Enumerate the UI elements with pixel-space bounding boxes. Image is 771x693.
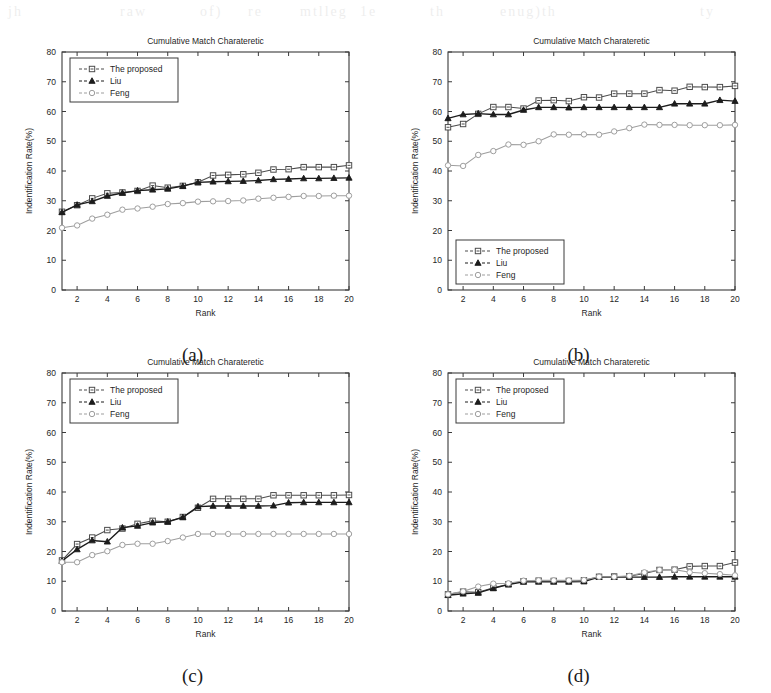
data-point-square-marker	[732, 83, 737, 88]
data-point-square-marker	[506, 104, 511, 109]
data-point-circle-marker	[506, 142, 511, 147]
y-axis-label: Indentification Rate(%)	[24, 449, 34, 535]
series-liu	[445, 574, 738, 598]
data-point-square-marker	[627, 91, 632, 96]
x-tick-label: 2	[461, 615, 466, 625]
x-tick-label: 6	[135, 294, 140, 304]
legend-label: The proposed	[110, 385, 163, 395]
data-point-circle-marker	[286, 531, 291, 536]
data-point-circle-marker	[210, 199, 215, 204]
y-tick-label: 50	[47, 457, 57, 467]
panel-caption-d: (d)	[386, 665, 771, 687]
data-point-circle-marker	[89, 90, 94, 95]
data-point-circle-marker	[642, 570, 647, 575]
y-tick-label: 60	[433, 428, 443, 438]
data-point-circle-marker	[89, 411, 94, 416]
chart-legend[interactable]: The proposedLiuFeng	[70, 379, 178, 423]
data-point-circle-marker	[642, 122, 647, 127]
data-point-square-marker	[241, 496, 246, 501]
data-point-circle-marker	[506, 581, 511, 586]
data-point-circle-marker	[566, 578, 571, 583]
x-tick-label: 20	[730, 294, 740, 304]
y-tick-label: 10	[433, 576, 443, 586]
data-point-square-marker	[346, 492, 351, 497]
data-point-circle-marker	[74, 560, 79, 565]
legend-label: The proposed	[110, 64, 163, 74]
y-tick-label: 70	[433, 398, 443, 408]
legend-label: The proposed	[496, 246, 549, 256]
x-tick-label: 10	[579, 615, 589, 625]
series-line	[448, 125, 735, 166]
data-point-circle-marker	[346, 531, 351, 536]
data-point-circle-marker	[702, 571, 707, 576]
x-tick-label: 2	[461, 294, 466, 304]
y-tick-label: 30	[47, 517, 57, 527]
data-point-square-marker	[241, 172, 246, 177]
y-tick-label: 20	[433, 226, 443, 236]
x-tick-label: 16	[670, 294, 680, 304]
data-point-circle-marker	[165, 538, 170, 543]
y-tick-label: 50	[47, 136, 57, 146]
data-point-circle-marker	[256, 531, 261, 536]
y-tick-label: 0	[51, 606, 56, 616]
y-tick-label: 80	[47, 368, 57, 378]
data-point-square-marker	[256, 496, 261, 501]
data-point-circle-marker	[150, 204, 155, 209]
chart-legend[interactable]: The proposedLiuFeng	[456, 240, 564, 284]
y-tick-label: 60	[47, 107, 57, 117]
chart-legend[interactable]: The proposedLiuFeng	[70, 58, 178, 102]
data-point-square-marker	[331, 164, 336, 169]
x-tick-label: 10	[193, 294, 203, 304]
x-tick-label: 20	[344, 294, 354, 304]
data-point-circle-marker	[536, 139, 541, 144]
y-tick-label: 10	[47, 255, 57, 265]
data-point-square-marker	[225, 496, 230, 501]
data-point-square-marker	[536, 98, 541, 103]
plot-area-d: 010203040506070802468101214161820Cumulat…	[386, 343, 771, 653]
chart-legend[interactable]: The proposedLiuFeng	[456, 379, 564, 423]
data-point-square-marker	[445, 125, 450, 130]
y-tick-label: 20	[433, 547, 443, 557]
data-point-circle-marker	[241, 198, 246, 203]
chart-title: Cumulative Match Charateretic	[147, 36, 264, 46]
cmc-chart-d: 010203040506070802468101214161820Cumulat…	[386, 343, 771, 653]
data-point-square-marker	[316, 493, 321, 498]
data-point-circle-marker	[596, 574, 601, 579]
x-tick-label: 18	[314, 294, 324, 304]
x-tick-label: 8	[551, 294, 556, 304]
data-point-circle-marker	[301, 193, 306, 198]
y-tick-label: 50	[433, 457, 443, 467]
data-point-circle-marker	[105, 212, 110, 217]
data-point-square-marker	[672, 88, 677, 93]
data-point-circle-marker	[581, 577, 586, 582]
legend-label: Liu	[110, 76, 122, 86]
y-axis-label: Indentification Rate(%)	[24, 128, 34, 214]
series-liu	[59, 499, 352, 563]
y-tick-label: 40	[433, 166, 443, 176]
data-point-circle-marker	[195, 531, 200, 536]
data-point-circle-marker	[195, 199, 200, 204]
x-axis-label: Rank	[196, 308, 217, 318]
y-tick-label: 40	[47, 166, 57, 176]
chart-panel-c: 010203040506070802468101214161820Cumulat…	[0, 343, 385, 689]
x-tick-label: 10	[193, 615, 203, 625]
data-point-circle-marker	[90, 216, 95, 221]
y-tick-label: 70	[47, 398, 57, 408]
data-point-circle-marker	[491, 581, 496, 586]
y-tick-label: 0	[437, 285, 442, 295]
data-point-square-marker	[717, 84, 722, 89]
x-tick-label: 20	[344, 615, 354, 625]
series-feng	[59, 531, 351, 565]
data-point-square-marker	[210, 496, 215, 501]
data-point-circle-marker	[59, 225, 64, 230]
x-tick-label: 18	[700, 615, 710, 625]
y-tick-label: 30	[47, 196, 57, 206]
y-tick-label: 80	[433, 47, 443, 57]
data-point-square-marker	[702, 563, 707, 568]
data-point-circle-marker	[120, 542, 125, 547]
data-point-square-marker	[301, 164, 306, 169]
data-point-square-marker	[301, 493, 306, 498]
legend-label: Liu	[496, 258, 508, 268]
data-point-circle-marker	[536, 578, 541, 583]
x-tick-label: 12	[609, 615, 619, 625]
